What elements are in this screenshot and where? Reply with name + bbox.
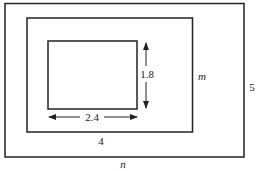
- nested-rectangles-diagram: 1.8 2.4 4 m 5 n: [0, 0, 260, 171]
- middle-rectangle: [27, 18, 193, 132]
- middle-height-label: m: [198, 70, 206, 82]
- outer-height-label: 5: [249, 81, 255, 93]
- outer-rectangle: [5, 4, 244, 158]
- middle-width-label: 4: [98, 135, 104, 147]
- outer-width-label: n: [120, 158, 126, 170]
- inner-width-label: 2.4: [85, 111, 99, 123]
- inner-height-label: 1.8: [140, 68, 154, 80]
- inner-rectangle: [48, 41, 137, 109]
